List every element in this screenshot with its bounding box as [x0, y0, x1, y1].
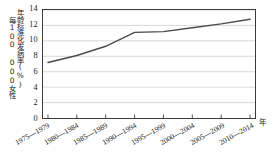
y-axis-tick-label: 4: [22, 84, 40, 92]
plot-area: [42, 9, 256, 119]
y-axis-label: 年龄标准化发病率(%) 每100 000女性: [0, 6, 24, 130]
y-axis-tick-label: 0: [22, 115, 40, 123]
x-axis-label: 年: [259, 119, 267, 127]
x-axis-tick-marks: [48, 115, 250, 118]
y-axis-tick-label: 12: [22, 21, 40, 29]
y-axis-tick-label: 14: [22, 5, 40, 13]
y-axis-tick-label: 10: [22, 36, 40, 44]
y-axis-tick-label: 8: [22, 52, 40, 60]
y-axis-label-line-2: 每100 000女性: [8, 6, 15, 98]
chart-figure: 年龄标准化发病率(%) 每100 000女性 02468101214 1975—…: [0, 0, 276, 160]
y-axis-tick-label: 6: [22, 68, 40, 76]
y-axis-tick-label: 2: [22, 99, 40, 107]
plot-svg: [43, 10, 255, 118]
